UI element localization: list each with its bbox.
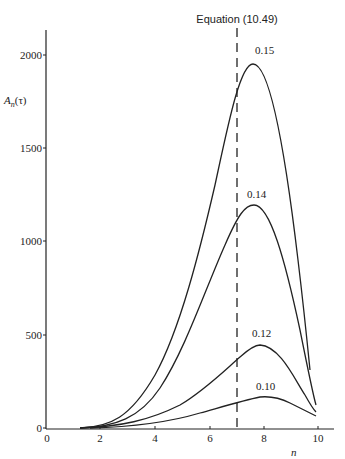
xtick-label: 0 bbox=[44, 432, 50, 444]
line-chart: 0 500 1000 1500 2000 0 2 4 6 8 10 n An(τ… bbox=[0, 0, 345, 459]
ytick-label: 0 bbox=[37, 422, 43, 434]
xtick-label: 8 bbox=[261, 432, 267, 444]
xtick-label: 2 bbox=[97, 432, 103, 444]
equation-label: Equation (10.49) bbox=[196, 13, 277, 25]
series-label-0-10: 0.10 bbox=[256, 380, 276, 392]
y-ticks: 0 500 1000 1500 2000 bbox=[20, 49, 46, 434]
xtick-label: 6 bbox=[207, 432, 213, 444]
series-label-0-12: 0.12 bbox=[252, 327, 271, 339]
xtick-label: 4 bbox=[152, 432, 158, 444]
x-axis-label: n bbox=[291, 446, 297, 458]
ytick-label: 1500 bbox=[20, 142, 43, 154]
y-axis-label: An(τ) bbox=[3, 94, 27, 109]
series-label-0-14: 0.14 bbox=[247, 188, 267, 200]
curve-0-12 bbox=[80, 345, 316, 428]
ytick-label: 500 bbox=[26, 329, 43, 341]
xtick-label: 10 bbox=[313, 432, 325, 444]
ytick-label: 2000 bbox=[20, 49, 43, 61]
series-curves bbox=[80, 64, 316, 428]
ytick-label: 1000 bbox=[20, 235, 43, 247]
curve-0-14 bbox=[80, 205, 316, 428]
curve-0-15 bbox=[80, 64, 310, 428]
series-label-0-15: 0.15 bbox=[255, 44, 275, 56]
